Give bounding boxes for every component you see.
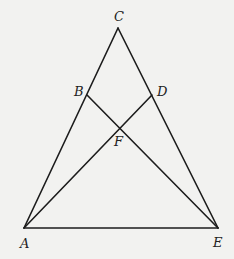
- segment-ad: [24, 95, 152, 228]
- label-c: C: [114, 9, 124, 24]
- geometry-diagram: A B C D E F: [0, 0, 234, 259]
- segment-ac: [24, 28, 118, 228]
- label-f: F: [113, 134, 124, 149]
- label-a: A: [19, 236, 29, 251]
- segment-ce: [118, 28, 218, 228]
- segment-be: [87, 95, 218, 228]
- segments: [24, 28, 218, 228]
- label-b: B: [73, 84, 84, 99]
- label-e: E: [212, 235, 223, 250]
- triangle-figure: A B C D E F: [0, 0, 234, 259]
- label-d: D: [156, 84, 168, 99]
